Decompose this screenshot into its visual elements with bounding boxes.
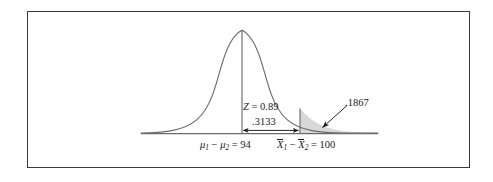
middle-area-label: .3133 bbox=[252, 116, 276, 127]
mean-axis-label: μ1 − μ2 = 94 bbox=[200, 139, 251, 152]
z-value-label: Z = 0.89 bbox=[243, 101, 278, 112]
tail-area-label: .1867 bbox=[345, 97, 369, 108]
normal-curve-figure: Z = 0.89 .3133 .1867 μ1 − μ2 = 94 X1 − X… bbox=[0, 0, 493, 182]
observed-axis-label: X1 − X2 = 100 bbox=[277, 139, 335, 152]
